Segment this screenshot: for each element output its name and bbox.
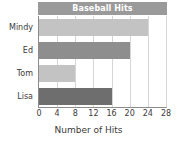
- bar-slot-tom: [39, 62, 166, 85]
- x-tick-label: 28: [161, 110, 171, 118]
- bar-slot-lisa: [39, 85, 166, 108]
- category-axis-labels: MindyEdTomLisa: [0, 16, 35, 108]
- x-tick-label: 24: [143, 110, 153, 118]
- category-label-text: Mindy: [9, 24, 35, 32]
- category-label-mindy: Mindy: [0, 16, 35, 39]
- category-label-text: Tom: [17, 70, 35, 78]
- x-tick-label: 8: [73, 110, 78, 118]
- category-label-ed: Ed: [0, 39, 35, 62]
- category-label-text: Lisa: [17, 93, 35, 101]
- value-axis-ticks: 0481216202428: [38, 110, 167, 121]
- chart-title: Baseball Hits: [72, 5, 132, 13]
- x-tick-label: 12: [88, 110, 98, 118]
- category-label-lisa: Lisa: [0, 85, 35, 108]
- bar-mindy[interactable]: [39, 19, 148, 36]
- bar-lisa[interactable]: [39, 88, 112, 105]
- x-axis-title: Number of Hits: [0, 126, 177, 135]
- category-label-text: Ed: [23, 47, 35, 55]
- bar-series: [39, 16, 166, 108]
- bar-ed[interactable]: [39, 42, 130, 59]
- category-label-tom: Tom: [0, 62, 35, 85]
- x-tick-label: 4: [55, 110, 60, 118]
- x-tick-label: 0: [36, 110, 41, 118]
- bar-tom[interactable]: [39, 65, 75, 82]
- gridline: [166, 16, 167, 107]
- chart-title-bar: Baseball Hits: [38, 2, 167, 15]
- x-tick-label: 20: [125, 110, 135, 118]
- bar-slot-mindy: [39, 16, 166, 39]
- x-tick-label: 16: [106, 110, 116, 118]
- baseball-hits-bar-chart: Baseball Hits MindyEdTomLisa 04812162024…: [0, 0, 177, 144]
- bar-slot-ed: [39, 39, 166, 62]
